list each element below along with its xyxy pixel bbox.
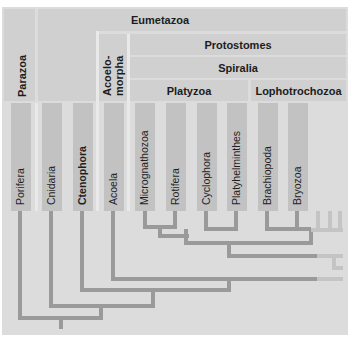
branch-platyzoa-join xyxy=(186,229,311,243)
branch-brachiopoda-bryozoa xyxy=(267,211,297,229)
branch-porifera xyxy=(20,211,101,318)
faded-branch-1 xyxy=(311,211,343,230)
phylogenetic-tree xyxy=(0,0,360,339)
branch-cyclophora xyxy=(206,211,236,229)
branch-micrognathozoa-rotifera xyxy=(145,211,175,227)
faded-branch-2 xyxy=(317,256,343,268)
